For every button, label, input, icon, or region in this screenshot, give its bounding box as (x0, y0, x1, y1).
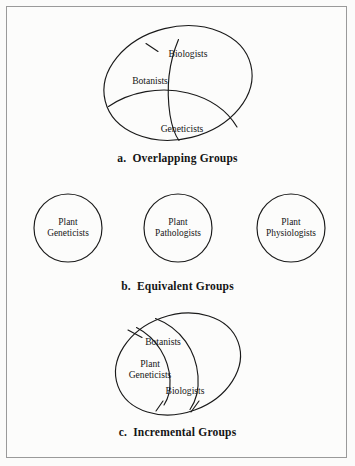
label-botanists-c: Botanists (145, 337, 181, 348)
label-biologists-c: Biologists (166, 386, 205, 397)
botanists-leader-line (128, 330, 142, 338)
caption-equivalent-groups: b. Equivalent Groups (0, 280, 355, 292)
biologists-leader-line-inner (156, 401, 163, 411)
figure-page: Biologists Botanists Geneticists a. Over… (0, 0, 355, 466)
label-plant-physiologists: Plant Physiologists (266, 217, 316, 238)
panel-incremental-groups: Botanists Plant Geneticists Biologists c… (0, 306, 355, 456)
label-geneticists-a: Geneticists (161, 124, 204, 135)
geneticists-divider-arc (109, 90, 238, 127)
biologists-leader-line (146, 44, 158, 52)
caption-overlapping-groups: a. Overlapping Groups (0, 152, 355, 164)
caption-incremental-groups: c. Incremental Groups (0, 426, 355, 438)
label-plant-pathologists: Plant Pathologists (155, 217, 201, 238)
panel-equivalent-groups: Plant Geneticists Plant Pathologists Pla… (0, 176, 355, 300)
label-plant-geneticists: Plant Geneticists (47, 217, 89, 238)
panel-overlapping-groups: Biologists Botanists Geneticists a. Over… (0, 14, 355, 164)
outer-ellipse-biologists (101, 306, 255, 432)
outer-ellipse (92, 14, 265, 155)
label-plant-geneticists-c: Plant Geneticists (129, 359, 172, 380)
label-botanists-a: Botanists (132, 76, 168, 87)
overlapping-groups-diagram (0, 14, 355, 164)
label-biologists-a: Biologists (169, 49, 208, 60)
